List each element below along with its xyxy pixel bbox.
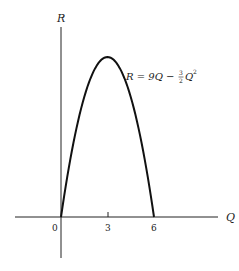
tick-label-0: 0 bbox=[52, 223, 58, 233]
tick-label-6: 6 bbox=[151, 223, 157, 233]
svg-text:2: 2 bbox=[193, 68, 197, 75]
equation-label: R = 9Q − 3 2 Q 2 bbox=[125, 68, 197, 84]
svg-text:R = 9Q −: R = 9Q − bbox=[125, 71, 174, 82]
svg-text:Q: Q bbox=[185, 71, 193, 82]
q-axis-label: Q bbox=[226, 211, 235, 224]
svg-text:2: 2 bbox=[179, 77, 183, 84]
svg-text:3: 3 bbox=[179, 69, 183, 76]
chart: Q R 0 3 6 R = 9Q − 3 2 Q 2 bbox=[0, 0, 239, 271]
revenue-plot: Q R 0 3 6 R = 9Q − 3 2 Q 2 bbox=[0, 0, 239, 271]
tick-label-3: 3 bbox=[105, 223, 111, 233]
r-axis-label: R bbox=[56, 12, 65, 25]
